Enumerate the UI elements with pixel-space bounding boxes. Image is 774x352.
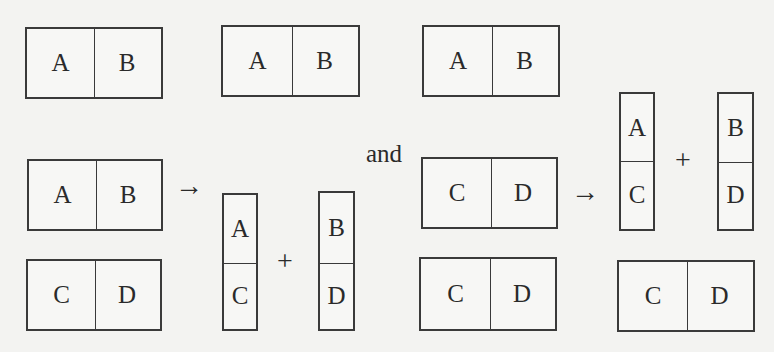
bd-column-right: B D — [717, 92, 754, 231]
cell-d: D — [490, 159, 556, 227]
plus-icon: + — [675, 146, 691, 174]
cell-d: D — [94, 261, 160, 329]
cell-b: B — [95, 161, 161, 229]
cd-box-bottom-2: C D — [617, 260, 755, 332]
cell-c: C — [28, 261, 96, 329]
cell-a: A — [223, 27, 293, 95]
ab-box-left-input: A B — [27, 159, 163, 231]
ac-column-left: A C — [222, 193, 258, 331]
cell-b: B — [291, 27, 358, 95]
cell-d: D — [489, 259, 555, 329]
cell-c: C — [421, 259, 491, 329]
cell-d: D — [719, 161, 752, 229]
cell-c: C — [224, 262, 256, 329]
cell-b: B — [93, 29, 161, 97]
cell-b: B — [719, 94, 752, 163]
cell-a: A — [424, 27, 493, 95]
cell-c: C — [619, 262, 688, 330]
cd-box-right-input: C D — [421, 157, 558, 229]
cell-a: A — [224, 195, 256, 264]
and-label: and — [366, 141, 402, 166]
cell-a: A — [27, 29, 95, 97]
cell-d: D — [320, 262, 353, 329]
ab-box-top-1: A B — [25, 27, 163, 99]
cell-a: A — [621, 94, 653, 162]
cell-b: B — [320, 193, 353, 264]
arrow-right-icon: → — [175, 172, 203, 200]
arrow-right-icon: → — [571, 178, 599, 206]
cell-b: B — [491, 27, 558, 95]
ab-box-top-3: A B — [422, 25, 560, 97]
cd-box-bottom-1: C D — [419, 257, 557, 331]
cell-a: A — [29, 161, 97, 229]
cd-box-left-input: C D — [26, 259, 162, 331]
ac-column-right: A C — [619, 92, 655, 231]
ab-box-top-2: A B — [221, 25, 360, 97]
cell-d: D — [686, 262, 753, 330]
plus-icon: + — [277, 247, 293, 275]
bd-column-left: B D — [318, 191, 355, 331]
cell-c: C — [423, 159, 492, 227]
cell-c: C — [621, 160, 653, 229]
